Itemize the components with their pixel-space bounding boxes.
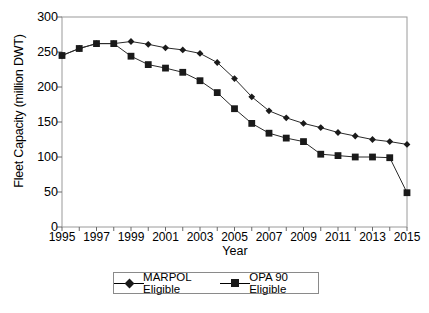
data-point-marker (369, 154, 376, 161)
data-point-marker (214, 89, 221, 96)
data-point-marker (145, 61, 152, 68)
data-point-marker (335, 129, 342, 136)
chart-figure: 050100150200250300 Fleet Capacity (milli… (0, 0, 429, 313)
data-point-marker (59, 52, 66, 59)
x-axis-title: Year (62, 244, 408, 258)
legend-label-marpol: MARPOL Eligible (143, 271, 220, 295)
x-tick-label: 2015 (387, 230, 427, 244)
y-tick-label: 200 (24, 81, 58, 93)
data-point-marker (179, 69, 186, 76)
data-point-marker (352, 154, 359, 161)
data-point-marker (128, 38, 135, 45)
data-point-marker (283, 114, 290, 121)
data-point-marker (317, 124, 324, 131)
data-point-marker (162, 44, 169, 51)
data-point-marker (179, 47, 186, 54)
data-point-marker (386, 138, 393, 145)
y-tick-label: 50 (24, 186, 58, 198)
diamond-marker-icon (114, 278, 140, 288)
data-point-marker (162, 65, 169, 72)
y-tick-label: 100 (24, 151, 58, 163)
legend-item-marpol: MARPOL Eligible (114, 271, 220, 295)
chart-legend: MARPOL Eligible OPA 90 Eligible (113, 272, 319, 294)
data-point-marker (248, 120, 255, 127)
y-tick-label: 150 (24, 116, 58, 128)
data-point-marker (93, 40, 100, 47)
series-line-1 (62, 42, 407, 145)
plot-frame (62, 17, 407, 227)
data-point-marker (300, 138, 307, 145)
series-line-2 (62, 44, 407, 193)
data-point-marker (197, 77, 204, 84)
data-point-marker (283, 135, 290, 142)
y-tick-label: 250 (24, 46, 58, 58)
data-point-marker (300, 120, 307, 127)
data-point-marker (266, 130, 273, 137)
data-point-marker (110, 40, 117, 47)
legend-label-opa90: OPA 90 Eligible (249, 271, 318, 295)
data-point-marker (404, 141, 411, 148)
square-marker-icon (220, 278, 246, 288)
data-point-marker (128, 53, 135, 60)
data-point-marker (145, 41, 152, 48)
y-tick-label: 300 (24, 11, 58, 23)
legend-item-opa90: OPA 90 Eligible (220, 271, 318, 295)
data-point-marker (369, 136, 376, 143)
data-point-marker (404, 189, 411, 196)
data-point-marker (317, 151, 324, 158)
data-point-marker (197, 50, 204, 57)
data-point-marker (386, 154, 393, 161)
data-point-marker (76, 45, 83, 52)
data-point-marker (335, 152, 342, 159)
data-point-marker (231, 105, 238, 112)
plot-canvas (0, 0, 429, 313)
y-axis-title: Fleet Capacity (million DWT) (12, 6, 26, 216)
data-point-marker (352, 133, 359, 140)
